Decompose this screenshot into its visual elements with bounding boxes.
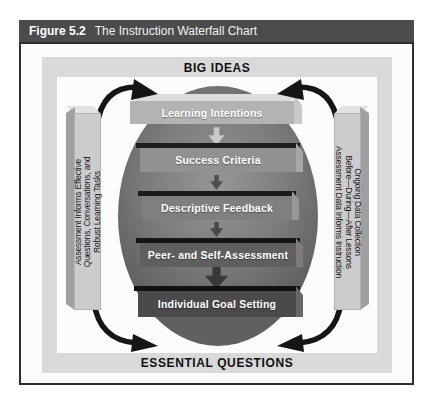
right-bar-line-1: Ongoing Data Collection bbox=[352, 115, 362, 310]
curved-arrow-top-right-icon bbox=[277, 79, 338, 126]
right-bar-line-3: Assessment Data Informs Instruction bbox=[333, 115, 343, 310]
right-bar-line-2: Before—During—After Lessons bbox=[343, 115, 353, 310]
figure-page: Figure 5.2 The Instruction Waterfall Cha… bbox=[0, 0, 432, 407]
left-bar-line-3: Robust Learning Tasks bbox=[92, 115, 102, 310]
left-bar-text: Assessment Informs Effective Questions, … bbox=[73, 115, 103, 310]
right-bar-text: Ongoing Data Collection Before—During—Af… bbox=[333, 115, 363, 310]
curved-arrow-bottom-left-icon bbox=[94, 302, 158, 352]
curved-arrow-top-left-icon bbox=[97, 79, 158, 126]
curved-arrow-bottom-right-icon bbox=[277, 302, 341, 352]
